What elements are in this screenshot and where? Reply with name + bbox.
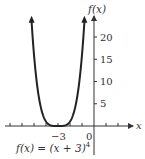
- x-axis-label: x: [136, 120, 142, 131]
- y-axis-label: f(x): [87, 3, 106, 15]
- y-tick-label: 10: [100, 76, 113, 87]
- curve-arrow-icon: [29, 16, 35, 23]
- y-tick-label: 15: [100, 54, 113, 65]
- function-curve: [32, 22, 85, 126]
- curve-arrow-icon: [81, 16, 87, 23]
- axes: [5, 16, 133, 155]
- axis-labels: 5101520−30xf(x): [51, 3, 142, 142]
- y-tick-label: 5: [100, 98, 106, 109]
- y-tick-label: 20: [100, 32, 113, 43]
- function-graph: 5101520−30xf(x) f(x) = (x + 3)4: [0, 0, 145, 159]
- x-tick-label: −3: [51, 131, 66, 142]
- function-formula-label: f(x) = (x + 3)4: [15, 141, 91, 154]
